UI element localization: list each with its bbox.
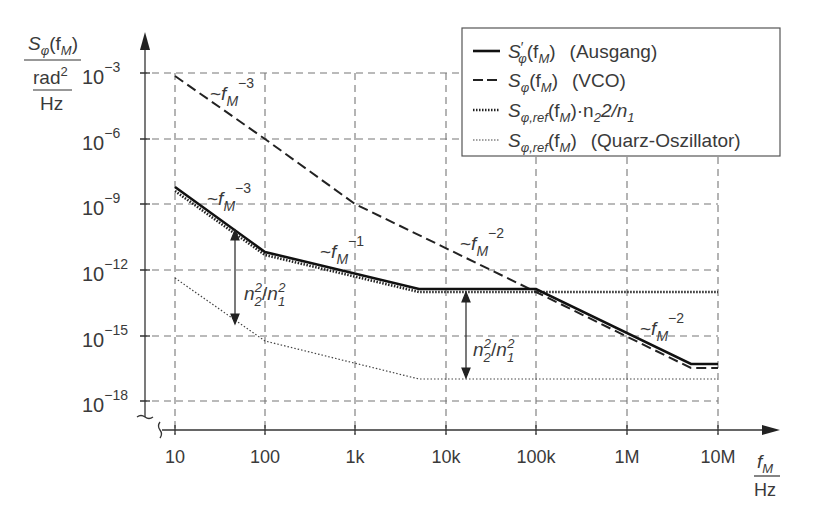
y-axis-arrow-icon: [140, 32, 150, 50]
svg-text:10−6: 10−6: [82, 125, 120, 154]
svg-text:Hz: Hz: [40, 93, 63, 114]
svg-text:~fM−2: ~fM−2: [460, 225, 504, 259]
y-axis-label: Sφ(fM) rad2 Hz: [24, 33, 81, 114]
svg-text:~fM−3: ~fM−3: [207, 180, 251, 214]
svg-text:10−15: 10−15: [82, 322, 128, 351]
x-tick-labels: 10 100 1k 10k 100k 1M 10M: [165, 447, 736, 467]
phase-noise-chart: 10−3 10−6 10−9 10−12 10−15 10−18 10 100 …: [0, 0, 818, 507]
svg-text:Sφ(fM): Sφ(fM): [28, 33, 78, 58]
svg-text:Hz: Hz: [754, 480, 776, 500]
svg-text:10−18: 10−18: [82, 387, 128, 416]
svg-text:1k: 1k: [345, 447, 365, 467]
svg-text:10k: 10k: [431, 447, 461, 467]
legend: S′φ(fM)(Ausgang) Sφ(fM)(VCO) Sφ,ref(fM)·…: [462, 28, 780, 156]
svg-text:10−12: 10−12: [82, 256, 128, 285]
svg-text:10−9: 10−9: [82, 190, 120, 219]
svg-text:100k: 100k: [516, 447, 556, 467]
legend-item-ausgang: S′φ(fM)(Ausgang): [508, 39, 657, 66]
x-axis-arrow-icon: [762, 425, 780, 435]
svg-text:~fM−3: ~fM−3: [210, 75, 254, 109]
svg-text:10: 10: [165, 447, 185, 467]
svg-text:fM: fM: [757, 451, 773, 476]
svg-text:n22/n12: n22/n12: [473, 336, 515, 365]
y-axis: [137, 44, 153, 419]
n-ratio-arrow-1: [231, 230, 239, 324]
svg-text:10M: 10M: [700, 447, 735, 467]
y-tick-labels: 10−3 10−6 10−9 10−12 10−15 10−18: [82, 59, 128, 416]
svg-text:~fM−1: ~fM−1: [320, 233, 364, 267]
n-ratio-arrow-2: [462, 292, 470, 378]
x-axis-label: fM Hz: [754, 451, 780, 500]
svg-text:rad2: rad2: [33, 64, 68, 88]
svg-text:100: 100: [250, 447, 280, 467]
svg-text:1M: 1M: [614, 447, 639, 467]
svg-text:10−3: 10−3: [82, 59, 120, 88]
svg-text:~fM−2: ~fM−2: [640, 310, 684, 344]
